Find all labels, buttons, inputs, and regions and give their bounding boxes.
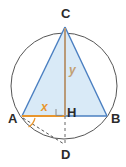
point-label-d: D xyxy=(61,148,70,161)
point-label-b: B xyxy=(111,112,120,125)
geometry-diagram-svg xyxy=(0,0,126,167)
label-y: y xyxy=(69,64,76,76)
point-label-a: A xyxy=(8,112,17,125)
point-label-c: C xyxy=(61,7,70,20)
point-label-h: H xyxy=(67,106,76,119)
label-x: x xyxy=(41,101,48,113)
geometry-figure: C A B H D x y xyxy=(0,0,126,167)
dashed-chord-ad xyxy=(23,118,64,144)
